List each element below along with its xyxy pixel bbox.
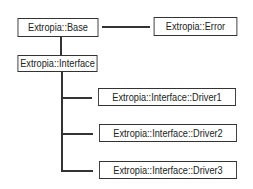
node-error: Extropia::Error	[154, 17, 238, 36]
node-base: Extropia::Base	[18, 18, 99, 37]
edge-interface-driver2	[61, 133, 93, 135]
edge-interface-driver1	[61, 97, 92, 99]
edge-interface-trunk	[61, 72, 63, 172]
node-driver1: Extropia::Interface::Driver1	[98, 88, 236, 106]
edge-base-interface	[60, 37, 62, 55]
class-hierarchy-diagram: Extropia::Base Extropia::Error Extropia:…	[0, 0, 253, 189]
edge-base-error	[102, 26, 150, 28]
node-interface: Extropia::Interface	[17, 55, 97, 72]
edge-interface-driver3	[61, 170, 93, 172]
node-driver2: Extropia::Interface::Driver2	[99, 124, 237, 142]
node-driver3: Extropia::Interface::Driver3	[99, 161, 237, 179]
